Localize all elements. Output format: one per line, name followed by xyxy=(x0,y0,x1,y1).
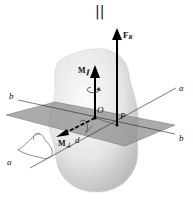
resultant-force-arrowhead xyxy=(112,28,122,40)
hand-icon xyxy=(18,134,52,159)
resultant-force-subscript: R xyxy=(129,34,133,40)
moment-parallel-subscript: ∥ xyxy=(86,69,89,75)
moment-parallel-label: M∥ xyxy=(78,67,89,75)
axis-b-right-label: b xyxy=(179,134,184,143)
force-moment-diagram xyxy=(0,0,193,203)
axis-b-left-label: b xyxy=(9,92,14,101)
moment-perp-symbol: M xyxy=(58,139,66,148)
moment-parallel-symbol: M xyxy=(78,66,86,75)
distance-label: d xyxy=(75,136,80,145)
axis-a-lower-label: a xyxy=(7,158,12,167)
parallel-symbol: || xyxy=(95,4,104,18)
point-p-label: P xyxy=(120,112,126,121)
axis-a-upper-label: a xyxy=(179,84,184,93)
moment-perp-subscript: ⊥ xyxy=(66,142,71,148)
resultant-force-label: FR xyxy=(123,31,133,40)
moment-perp-label: M⊥ xyxy=(58,140,71,148)
origin-label: O xyxy=(97,106,104,115)
